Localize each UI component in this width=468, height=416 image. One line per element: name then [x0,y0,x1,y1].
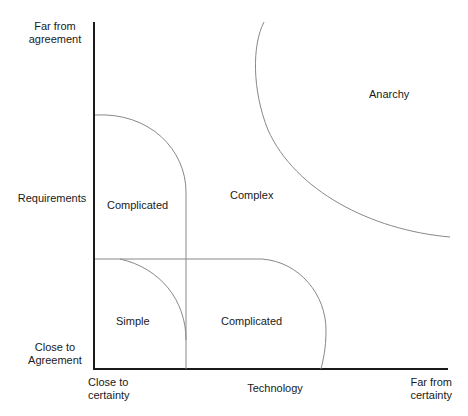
region-label-complex: Complex [230,189,273,201]
x-axis-right-label: Far from certainty [397,376,452,402]
region-label-anarchy: Anarchy [369,88,409,100]
complicated-technology-boundary [95,259,326,369]
x-axis-label: Technology [235,382,315,395]
y-axis-top-label: Far from agreement [20,20,90,46]
region-label-complicated-technology: Complicated [221,315,282,327]
anarchy-boundary [255,22,450,237]
region-label-complicated-requirements: Complicated [107,199,168,211]
region-label-simple: Simple [116,315,150,327]
y-axis-bottom-label: Close to Agreement [20,341,90,367]
x-axis-left-label: Close to certainty [88,376,148,402]
simple-boundary [120,259,186,340]
complicated-requirements-boundary [95,115,186,369]
y-axis-label: Requirements [12,192,92,205]
